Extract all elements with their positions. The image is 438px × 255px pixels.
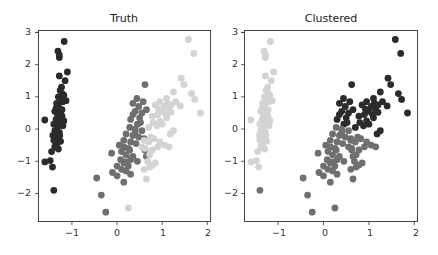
data-point xyxy=(392,36,399,43)
data-point xyxy=(268,77,275,84)
data-point xyxy=(62,77,69,84)
plot-title: Truth xyxy=(109,12,138,25)
data-point xyxy=(55,146,62,153)
data-point xyxy=(361,143,368,150)
data-point xyxy=(320,172,327,179)
data-point xyxy=(190,50,197,57)
data-point xyxy=(374,131,381,138)
data-point xyxy=(50,187,57,194)
data-point xyxy=(338,129,345,136)
data-point xyxy=(139,143,146,150)
data-point xyxy=(181,81,188,88)
data-point xyxy=(188,90,195,97)
data-point xyxy=(98,192,105,199)
data-point xyxy=(369,111,376,118)
data-point xyxy=(178,75,185,82)
data-point xyxy=(309,209,316,216)
y-tick-label: 1 xyxy=(232,90,238,101)
data-points xyxy=(41,36,204,216)
data-point xyxy=(122,159,129,166)
data-point xyxy=(270,69,277,76)
data-point xyxy=(162,111,169,118)
data-point xyxy=(133,140,140,147)
data-point xyxy=(350,176,357,183)
data-point xyxy=(357,135,364,142)
data-point xyxy=(123,131,130,138)
data-point xyxy=(334,116,341,123)
data-point xyxy=(41,117,48,124)
x-axis: −1 0 1 2 xyxy=(65,227,211,238)
x-tick-label: 2 xyxy=(413,227,419,238)
data-point xyxy=(127,171,134,178)
data-point xyxy=(191,96,198,103)
data-point xyxy=(159,121,166,128)
data-point xyxy=(60,92,67,99)
data-point xyxy=(61,38,68,45)
data-point xyxy=(395,90,402,97)
data-point xyxy=(345,127,352,134)
data-point xyxy=(352,124,359,131)
x-tick-label: −1 xyxy=(272,227,286,238)
data-point xyxy=(170,89,177,96)
x-tick-label: 1 xyxy=(160,227,166,238)
y-axis: 3 2 1 0 −1 −2 xyxy=(224,26,238,198)
data-point xyxy=(259,100,266,107)
data-point xyxy=(348,81,355,88)
data-point xyxy=(265,106,272,113)
data-point xyxy=(344,119,351,126)
y-tick-label: −1 xyxy=(224,155,238,166)
data-point xyxy=(254,148,261,155)
data-point xyxy=(404,110,411,117)
data-point xyxy=(329,131,336,138)
data-point xyxy=(164,100,171,107)
data-point xyxy=(345,143,352,150)
data-point xyxy=(262,54,269,61)
clustered-scatter-plot: Clustered 3 2 1 0 −1 −2 −1 0 1 2 xyxy=(207,0,426,255)
data-point xyxy=(267,92,274,99)
data-point xyxy=(154,143,161,150)
y-tick-label: 1 xyxy=(25,90,31,101)
data-point xyxy=(267,38,274,45)
data-point xyxy=(167,131,174,138)
data-point xyxy=(300,175,307,182)
data-point xyxy=(143,176,150,183)
plot-title: Clustered xyxy=(305,12,358,25)
data-point xyxy=(197,110,204,117)
data-point xyxy=(397,50,404,57)
y-tick-label: 3 xyxy=(25,26,31,37)
data-point xyxy=(362,106,369,113)
data-point xyxy=(132,129,139,136)
data-point xyxy=(149,113,156,120)
data-point xyxy=(385,75,392,82)
data-point xyxy=(155,106,162,113)
data-point xyxy=(142,81,149,88)
data-point xyxy=(125,205,132,212)
data-point xyxy=(49,164,56,171)
data-point xyxy=(166,143,173,150)
data-point xyxy=(372,143,379,150)
data-point xyxy=(145,124,152,131)
data-point xyxy=(339,140,346,147)
data-point xyxy=(172,98,179,105)
data-point xyxy=(387,81,394,88)
y-tick-label: −1 xyxy=(17,155,31,166)
data-point xyxy=(353,151,360,158)
data-point xyxy=(108,150,115,157)
y-tick-label: 2 xyxy=(25,58,31,69)
y-tick-label: −2 xyxy=(224,187,238,198)
data-point xyxy=(332,205,339,212)
x-tick-label: 1 xyxy=(367,227,373,238)
x-tick-label: 0 xyxy=(114,227,120,238)
y-tick-label: 2 xyxy=(232,58,238,69)
tick-marks xyxy=(35,32,207,225)
data-point xyxy=(333,147,340,154)
data-point xyxy=(248,117,255,124)
y-tick-label: 3 xyxy=(232,26,238,37)
data-point xyxy=(315,150,322,157)
data-point xyxy=(262,132,269,139)
data-point xyxy=(328,159,335,166)
data-point xyxy=(56,73,63,80)
y-tick-label: 0 xyxy=(232,123,238,134)
data-point xyxy=(336,100,343,107)
data-point xyxy=(53,100,60,107)
